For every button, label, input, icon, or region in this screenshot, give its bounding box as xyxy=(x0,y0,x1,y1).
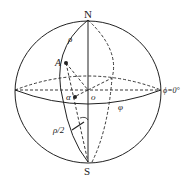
label-rho-half: ρ/2 xyxy=(52,125,65,135)
point-a xyxy=(64,61,68,65)
point-alpha xyxy=(73,95,77,99)
label-alpha: α xyxy=(66,92,71,102)
angle-arc xyxy=(80,117,88,120)
line-a-south xyxy=(66,63,88,162)
line-center-right xyxy=(88,78,112,90)
label-north: N xyxy=(84,8,92,20)
rho-half-arrow xyxy=(72,122,84,130)
sphere-diagram: N S o A ρ α φ ρ/2 ϕ=0° xyxy=(0,0,193,184)
label-south: S xyxy=(84,165,90,177)
label-phi: φ xyxy=(118,102,123,112)
label-point-a: A xyxy=(54,57,62,68)
label-rho: ρ xyxy=(67,34,73,44)
meridian-right xyxy=(88,20,114,162)
label-meridian-zero: ϕ=0° xyxy=(163,86,181,95)
label-center: o xyxy=(91,92,96,102)
meridian-left xyxy=(60,20,88,162)
